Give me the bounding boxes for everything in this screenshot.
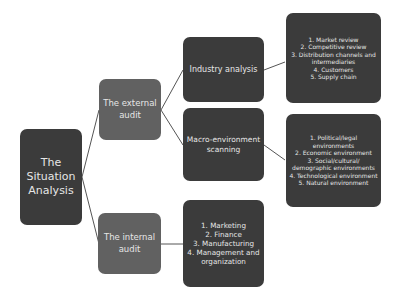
internal-item: 1. Marketing (201, 221, 246, 230)
industry-item: 3. Distribution channels and intermediar… (289, 51, 378, 66)
macro-environment-label: Macro-environment scanning (186, 135, 261, 155)
internal-audit-label: The internal audit (101, 232, 158, 254)
macro-item: 3. Social/cultural/ demographic environm… (289, 157, 378, 172)
external-audit-node: The external audit (99, 79, 161, 140)
industry-analysis-list: 1. Market review 2. Competitive review 3… (286, 13, 381, 103)
industry-item: 4. Customers (314, 66, 354, 74)
macro-item: 2. Economic environment (295, 149, 372, 157)
macro-item: 4. Technological environment (289, 172, 377, 180)
root-label: The Situation Analysis (23, 156, 79, 199)
macro-item: 5. Natural environment (299, 179, 369, 187)
root-connector (82, 110, 99, 244)
industry-item: 1. Market review (308, 36, 358, 44)
industry-connector (264, 62, 285, 70)
external-audit-connector (161, 70, 183, 145)
internal-item: 2. Finance (205, 230, 242, 239)
internal-audit-list: 1. Marketing 2. Finance 3. Manufacturing… (183, 200, 264, 287)
external-audit-label: The external audit (102, 98, 158, 120)
macro-connector (264, 145, 285, 160)
industry-item: 2. Competitive review (301, 43, 367, 51)
macro-item: 1. Political/legal environments (289, 134, 378, 149)
macro-environment-list: 1. Political/legal environments 2. Econo… (286, 114, 381, 207)
macro-environment-node: Macro-environment scanning (183, 108, 264, 181)
internal-item: 3. Manufacturing (193, 239, 254, 248)
root-node: The Situation Analysis (20, 129, 82, 225)
internal-item: 4. Management and organization (186, 248, 261, 266)
internal-audit-node: The internal audit (98, 213, 161, 274)
industry-analysis-node: Industry analysis (183, 37, 264, 102)
industry-analysis-label: Industry analysis (190, 65, 258, 74)
industry-item: 5. Supply chain (310, 73, 356, 81)
